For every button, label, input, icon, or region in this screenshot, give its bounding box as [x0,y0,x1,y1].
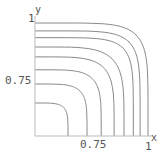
contour-line [35,38,133,136]
y-tick-1: 1 [28,13,35,24]
x-tick-075: 0.75 [80,139,107,150]
contour-lines [35,23,148,136]
contour-line [35,84,87,136]
contour-line [35,23,148,136]
y-axis-label: y [35,5,41,15]
x-axis-label: x [151,133,157,143]
contour-line [35,47,124,136]
y-tick-075: 0.75 [5,75,32,86]
contour-line [35,103,68,136]
contour-line [35,57,114,136]
